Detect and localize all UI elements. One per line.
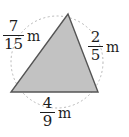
fraction-bottom: 4 9 xyxy=(40,96,55,129)
fraction-right-denominator: 5 xyxy=(90,47,102,63)
fraction-right: 2 5 xyxy=(88,30,103,63)
fraction-left: 7 15 xyxy=(3,19,24,52)
fraction-right-numerator: 2 xyxy=(90,30,102,46)
fraction-bottom-denominator: 9 xyxy=(42,113,54,129)
label-right-side: 2 5 m xyxy=(88,30,119,63)
fraction-left-denominator: 15 xyxy=(3,36,24,52)
label-left-side: 7 15 m xyxy=(3,19,40,52)
unit-left: m xyxy=(27,29,40,43)
geometry-figure: 7 15 m 2 5 m 4 9 m xyxy=(0,0,129,137)
fraction-left-numerator: 7 xyxy=(8,19,20,35)
unit-right: m xyxy=(106,40,119,54)
label-base-side: 4 9 m xyxy=(40,96,71,129)
fraction-bottom-numerator: 4 xyxy=(42,96,54,112)
unit-bottom: m xyxy=(58,106,71,120)
